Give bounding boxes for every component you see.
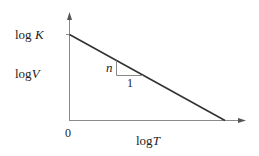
origin-label: 0 xyxy=(65,126,71,141)
logK-var: K xyxy=(35,27,44,42)
logK-prefix: log xyxy=(15,27,32,42)
logV-label: logV xyxy=(15,66,40,82)
logT-prefix: log xyxy=(136,133,153,148)
x-axis-arrow-icon xyxy=(238,118,246,123)
logV-prefix: log xyxy=(15,66,32,81)
logT-var: T xyxy=(153,133,160,148)
slope-run-label: 1 xyxy=(127,76,133,91)
logK-label: log K xyxy=(15,27,44,43)
y-axis-arrow-icon xyxy=(67,12,72,20)
logV-var: V xyxy=(32,66,40,81)
regression-line xyxy=(70,35,226,121)
slope-n-label: n xyxy=(106,60,113,76)
logT-label: logT xyxy=(136,133,160,149)
